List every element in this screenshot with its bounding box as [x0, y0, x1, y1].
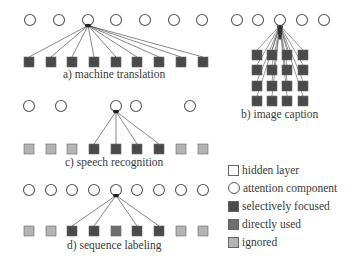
attention-node: [25, 15, 36, 26]
hidden-state-direct: [111, 226, 121, 236]
attention-node: [275, 15, 286, 26]
hidden-state-selective: [282, 50, 292, 60]
attention-edge: [29, 26, 88, 58]
panel-sequence-labeling: [24, 185, 209, 237]
selective-square-icon: [228, 201, 239, 212]
attention-node: [297, 15, 308, 26]
hidden-state-selective: [252, 96, 262, 106]
attention-node: [154, 185, 165, 196]
ignored-square-icon: [228, 237, 239, 248]
attention-node: [176, 185, 187, 196]
hidden-state-selective: [111, 57, 121, 67]
hidden-state-selective: [282, 96, 292, 106]
attention-node: [197, 15, 208, 26]
hidden-state-selective: [67, 226, 77, 236]
attention-node: [46, 185, 57, 196]
attention-edge: [88, 26, 203, 58]
hidden-state-selective: [89, 57, 99, 67]
hidden-state-selective: [46, 57, 56, 67]
hidden-state-ignored: [67, 144, 77, 154]
hidden-state-selective: [89, 144, 99, 154]
hidden-state-ignored: [198, 144, 208, 154]
hidden-state-ignored: [46, 226, 56, 236]
direct-square-icon: [228, 219, 239, 230]
legend-item-selectively-focused: selectively focused: [228, 197, 337, 215]
attention-node: [253, 15, 264, 26]
attention-edge: [116, 196, 159, 227]
legend-item-hidden-layer: hidden layer: [228, 161, 337, 179]
attention-edge: [94, 196, 116, 227]
legend-item-ignored: ignored: [228, 233, 337, 251]
hidden-state-selective: [252, 50, 262, 60]
attention-edge: [257, 26, 280, 51]
hidden-state-selective: [298, 50, 308, 60]
attention-edge: [88, 26, 137, 58]
attention-edge: [88, 26, 159, 58]
hidden-state-selective: [298, 96, 308, 106]
hidden-state-selective: [24, 57, 34, 67]
panel-d-caption: d) sequence labeling: [67, 239, 162, 251]
hidden-state-selective: [282, 81, 292, 91]
hidden-state-ignored: [24, 144, 34, 154]
attention-node: [54, 15, 65, 26]
panel-speech-recognition: [24, 101, 209, 155]
attention-node: [169, 15, 180, 26]
attention-node: [89, 185, 100, 196]
hidden-state-ignored: [198, 226, 208, 236]
attention-edge: [51, 26, 88, 58]
hidden-state-selective: [154, 226, 164, 236]
attention-node: [56, 101, 67, 112]
hidden-state-ignored: [24, 226, 34, 236]
attention-node: [67, 185, 78, 196]
legend-label: selectively focused: [242, 200, 330, 212]
panel-a-caption: a) machine translation: [63, 68, 165, 80]
panel-b-caption: b) image caption: [241, 108, 318, 120]
hidden-state-selective: [252, 65, 262, 75]
legend: hidden layer attention component selecti…: [228, 161, 337, 251]
attention-node: [131, 101, 142, 112]
hidden-state-selective: [132, 57, 142, 67]
attention-edge: [72, 196, 116, 227]
hidden-state-selective: [252, 81, 262, 91]
hidden-state-selective: [132, 226, 142, 236]
attention-node: [24, 185, 35, 196]
attention-edge: [116, 112, 137, 145]
attention-node: [140, 15, 151, 26]
hidden-state-ignored: [46, 144, 56, 154]
attention-node: [198, 185, 209, 196]
hidden-state-selective: [132, 144, 142, 154]
hidden-state-selective: [176, 57, 186, 67]
panel-image-caption: [232, 15, 330, 107]
attention-edge: [88, 26, 94, 58]
hidden-state-selective: [67, 57, 77, 67]
panel-machine-translation: [24, 15, 208, 68]
attention-circle-icon: [228, 182, 240, 194]
legend-label: hidden layer: [242, 164, 299, 176]
hidden-state-selective: [267, 81, 277, 91]
hidden-state-selective: [298, 81, 308, 91]
legend-item-attention-component: attention component: [228, 179, 337, 197]
hidden-state-selective: [282, 65, 292, 75]
attention-edge: [116, 112, 159, 145]
hidden-state-selective: [154, 144, 164, 154]
hidden-state-selective: [89, 226, 99, 236]
hidden-state-selective: [298, 65, 308, 75]
hidden-state-selective: [267, 65, 277, 75]
attention-node: [319, 15, 330, 26]
attention-node: [132, 185, 143, 196]
legend-item-directly-used: directly used: [228, 215, 337, 233]
legend-label: directly used: [242, 218, 301, 230]
attention-node: [185, 101, 196, 112]
hidden-state-selective: [267, 96, 277, 106]
attention-edge: [116, 196, 137, 227]
attention-node: [232, 15, 243, 26]
hidden-state-selective: [154, 57, 164, 67]
attention-edge: [72, 26, 88, 58]
panel-c-caption: c) speech recognition: [65, 156, 163, 168]
legend-label: attention component: [243, 182, 337, 194]
attention-node: [24, 101, 35, 112]
legend-label: ignored: [242, 236, 277, 248]
focus-point: [113, 110, 119, 114]
focus-point: [113, 194, 119, 198]
hidden-state-selective: [198, 57, 208, 67]
